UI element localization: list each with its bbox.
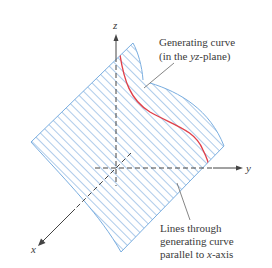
generating-curve-label-line1: Generating curve — [159, 36, 235, 48]
generating-curve-label-line2: (in the yz-plane) — [159, 50, 231, 63]
x-axis — [43, 209, 75, 241]
rulings-leader — [177, 183, 190, 220]
rulings-label-line1: Lines through — [160, 222, 222, 234]
surface — [31, 43, 224, 252]
cylinder-surface-diagram: z y x Generating curve (in the yz-plane)… — [0, 0, 272, 268]
surface-fill — [31, 43, 224, 252]
generating-curve-leader — [144, 63, 174, 88]
rulings-label-line3: parallel to x-axis — [160, 248, 233, 260]
z-axis-label: z — [112, 19, 118, 31]
y-axis-arrow-icon — [236, 166, 243, 171]
rulings-label-line2: generating curve — [160, 235, 234, 247]
x-axis-label: x — [30, 243, 36, 255]
rulings-annotation: Lines through generating curve parallel … — [160, 222, 234, 260]
y-axis-label: y — [245, 162, 251, 174]
z-axis-arrow-icon — [114, 34, 119, 41]
generating-curve-annotation: Generating curve (in the yz-plane) — [159, 36, 235, 63]
